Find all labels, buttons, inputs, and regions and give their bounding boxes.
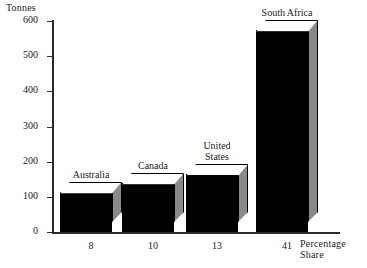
bar-category-label: United States	[174, 140, 260, 162]
bar-top-face	[122, 173, 184, 185]
y-tick-label: 600	[4, 14, 38, 25]
y-tick-mark	[47, 56, 53, 57]
x-tick-label: 8	[60, 240, 122, 251]
bar-top-face	[186, 164, 248, 176]
y-tick-label: 0	[4, 225, 38, 236]
y-tick-mark	[47, 21, 53, 22]
bar-top-face	[60, 182, 122, 194]
y-tick-mark	[47, 197, 53, 198]
bar-chart: Tonnes Percentage Share 6005004003002001…	[0, 0, 367, 268]
y-tick-mark	[47, 127, 53, 128]
y-tick-label: 500	[4, 49, 38, 60]
y-tick-mark	[47, 91, 53, 92]
y-tick-mark	[47, 232, 53, 233]
bar	[60, 182, 122, 232]
x-axis-line	[52, 232, 340, 234]
x-tick-label: 13	[186, 240, 248, 251]
bar	[186, 164, 248, 232]
bar-front-face	[256, 30, 308, 232]
y-axis-title: Tonnes	[6, 2, 36, 13]
bar-category-label: South Africa	[244, 7, 330, 18]
bar-front-face	[60, 192, 112, 232]
bar-top-face	[256, 20, 318, 32]
x-tick-label: 41	[256, 240, 318, 251]
bar-front-face	[186, 174, 238, 232]
y-tick-label: 400	[4, 84, 38, 95]
y-tick-label: 300	[4, 120, 38, 131]
bar-side-face	[308, 20, 318, 222]
y-tick-label: 200	[4, 155, 38, 166]
y-tick-mark	[47, 162, 53, 163]
bar	[256, 20, 318, 232]
bar-front-face	[122, 183, 174, 232]
bar	[122, 173, 184, 232]
y-tick-label: 100	[4, 190, 38, 201]
x-tick-label: 10	[122, 240, 184, 251]
